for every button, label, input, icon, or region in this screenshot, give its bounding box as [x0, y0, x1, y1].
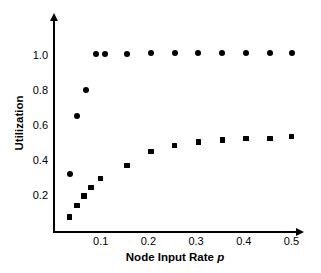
data-point-circle	[219, 50, 225, 56]
data-point-square	[88, 185, 94, 191]
data-point-circle	[267, 50, 273, 56]
data-point-square	[172, 143, 178, 149]
data-point-circle	[74, 113, 80, 119]
data-point-circle	[243, 50, 249, 56]
data-point-square	[81, 193, 87, 199]
chart-figure: 0.20.40.60.81.0 0.10.20.30.40.5 Node Inp…	[0, 0, 321, 273]
data-point-circle	[124, 51, 130, 57]
data-point-circle	[83, 87, 89, 93]
data-point-square	[148, 149, 154, 155]
data-point-square	[74, 203, 80, 209]
data-point-square	[289, 134, 295, 140]
data-point-circle	[172, 50, 178, 56]
data-point-square	[220, 137, 226, 143]
data-point-circle	[102, 51, 108, 57]
data-point-square	[267, 136, 273, 142]
data-point-square	[98, 176, 104, 182]
data-point-square	[124, 163, 130, 169]
data-point-square	[243, 136, 249, 142]
plot-area	[0, 0, 321, 273]
data-point-circle	[67, 171, 73, 177]
data-point-circle	[93, 51, 99, 57]
data-point-square	[196, 139, 202, 145]
data-point-circle	[289, 50, 295, 56]
data-point-square	[67, 214, 73, 220]
data-point-circle	[195, 50, 201, 56]
data-point-circle	[148, 50, 154, 56]
